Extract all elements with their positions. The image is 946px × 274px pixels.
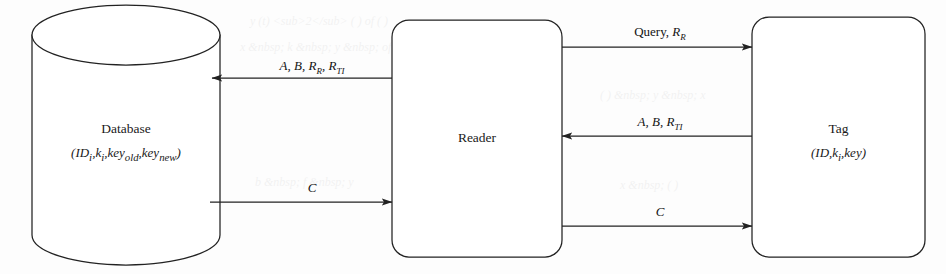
node-database-shape: [32, 5, 220, 265]
node-tag-shape: [752, 17, 925, 257]
edge-label-reader-to-tag-query: Query, RR: [580, 24, 740, 42]
edge-label-tag-to-reader: A, B, RTI: [580, 114, 740, 132]
edge-label-reader-to-tag-c: C: [580, 204, 740, 220]
node-reader-shape: [392, 20, 562, 257]
protocol-flow-diagram: y (t) <sub>2</sub> ( ) of ( ) x &nbsp; k…: [0, 0, 946, 274]
edge-label-database-to-reader: C: [232, 180, 392, 196]
edge-label-reader-to-database: A, B, RR, RTI: [232, 58, 392, 76]
diagram-vector-layer: [0, 0, 946, 274]
